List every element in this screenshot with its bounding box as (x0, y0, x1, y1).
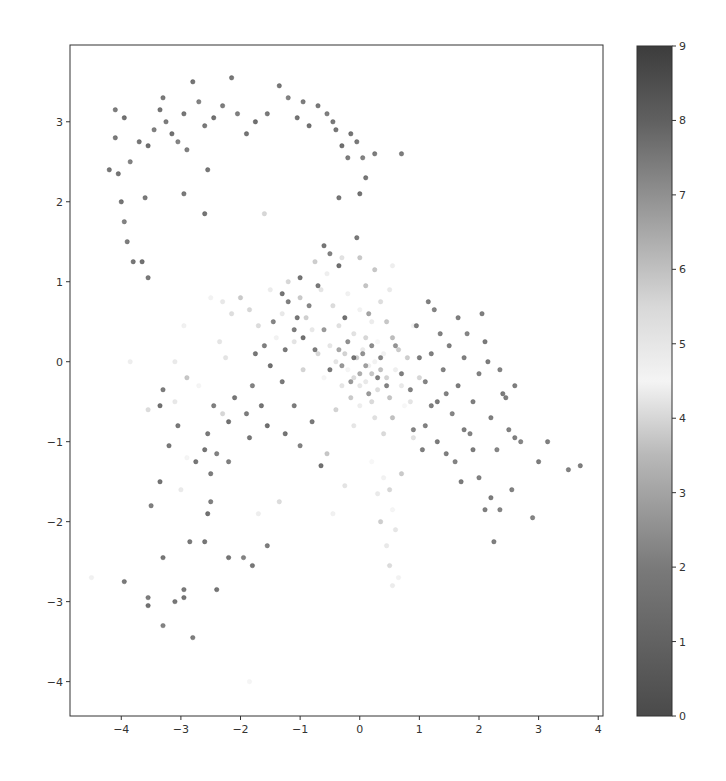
data-point (331, 512, 335, 516)
data-point (116, 172, 120, 176)
x-tick-label: 4 (595, 723, 602, 736)
x-axis: −4−3−2−101234 (113, 716, 602, 736)
data-point (349, 396, 353, 400)
data-point (113, 136, 117, 140)
data-point (358, 404, 362, 408)
data-point (358, 256, 362, 260)
data-point (158, 404, 162, 408)
data-point (378, 356, 382, 360)
data-point (510, 488, 514, 492)
data-point (280, 292, 284, 296)
data-point (456, 316, 460, 320)
data-point (381, 352, 385, 356)
data-point (298, 276, 302, 280)
data-point (378, 520, 382, 524)
data-point (256, 512, 260, 516)
data-point (364, 176, 368, 180)
data-point (373, 152, 377, 156)
data-point (468, 432, 472, 436)
data-point (206, 432, 210, 436)
data-point (185, 456, 189, 460)
data-point (265, 112, 269, 116)
data-point (206, 168, 210, 172)
data-point (253, 352, 257, 356)
data-point (229, 312, 233, 316)
data-point (364, 364, 368, 368)
data-point (387, 288, 391, 292)
data-point (408, 388, 412, 392)
data-point (408, 400, 412, 404)
data-point (223, 356, 227, 360)
data-point (384, 320, 388, 324)
data-point (122, 220, 126, 224)
data-point (152, 128, 156, 132)
data-point (146, 595, 150, 599)
scatter-points (89, 76, 582, 684)
data-point (212, 404, 216, 408)
data-point (396, 348, 400, 352)
data-point (229, 76, 233, 80)
data-point (304, 316, 308, 320)
data-point (292, 404, 296, 408)
data-point (423, 380, 427, 384)
data-point (566, 468, 570, 472)
data-point (301, 368, 305, 372)
data-point (215, 452, 219, 456)
data-point (352, 332, 356, 336)
data-point (352, 424, 356, 428)
data-point (399, 372, 403, 376)
colorbar-tick-label: 7 (679, 189, 686, 202)
x-tick-label: 1 (416, 723, 423, 736)
data-point (453, 460, 457, 464)
data-point (387, 563, 391, 567)
data-point (390, 416, 394, 420)
data-point (316, 104, 320, 108)
data-point (375, 492, 379, 496)
data-point (176, 424, 180, 428)
data-point (334, 128, 338, 132)
data-point (119, 200, 123, 204)
data-point (423, 424, 427, 428)
data-point (182, 112, 186, 116)
data-point (307, 304, 311, 308)
data-point (280, 380, 284, 384)
colorbar-tick-label: 0 (679, 710, 686, 723)
data-point (313, 260, 317, 264)
data-point (173, 599, 177, 603)
data-point (274, 336, 278, 340)
data-point (226, 460, 230, 464)
data-point (161, 388, 165, 392)
data-point (215, 587, 219, 591)
data-point (373, 360, 377, 364)
colorbar-tick-label: 4 (679, 412, 686, 425)
data-point (489, 416, 493, 420)
data-point (262, 212, 266, 216)
data-point (390, 508, 394, 512)
data-point (328, 368, 332, 372)
data-point (146, 408, 150, 412)
data-point (280, 312, 284, 316)
data-point (191, 635, 195, 639)
data-point (247, 308, 251, 312)
data-point (209, 500, 213, 504)
data-point (334, 360, 338, 364)
data-point (182, 192, 186, 196)
data-point (140, 260, 144, 264)
data-point (507, 428, 511, 432)
data-point (370, 320, 374, 324)
data-point (307, 124, 311, 128)
chart-canvas: −4−3−2−101234 3210−1−2−3−4 0123456789 (0, 0, 726, 781)
data-point (349, 132, 353, 136)
data-point (331, 304, 335, 308)
data-point (352, 356, 356, 360)
data-point (375, 376, 379, 380)
data-point (316, 284, 320, 288)
data-point (319, 464, 323, 468)
data-point (292, 328, 296, 332)
data-point (346, 156, 350, 160)
data-point (358, 308, 362, 312)
data-point (361, 352, 365, 356)
data-point (298, 444, 302, 448)
data-point (295, 316, 299, 320)
y-tick-label: −2 (47, 516, 63, 529)
